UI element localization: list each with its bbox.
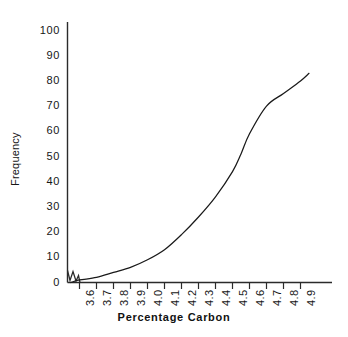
x-axis-tick-labels: 3.63.73.83.94.04.14.24.34.44.54.64.74.84… bbox=[0, 0, 348, 337]
x-tick-label: 4.0 bbox=[153, 290, 164, 307]
x-tick-label: 4.5 bbox=[238, 290, 249, 307]
x-tick-label: 4.7 bbox=[272, 290, 283, 307]
x-tick-label: 3.7 bbox=[102, 290, 113, 307]
x-tick-label: 4.4 bbox=[221, 290, 232, 307]
x-tick-label: 4.2 bbox=[187, 290, 198, 307]
x-tick-label: 4.6 bbox=[255, 290, 266, 307]
x-tick-label: 3.8 bbox=[119, 290, 130, 307]
x-tick-label: 4.9 bbox=[306, 290, 317, 307]
y-axis-title: Frequency bbox=[9, 132, 21, 186]
cumulative-frequency-chart: 0102030405060708090100 3.63.73.83.94.04.… bbox=[0, 0, 348, 337]
x-tick-label: 4.3 bbox=[204, 290, 215, 307]
x-tick-label: 4.8 bbox=[289, 290, 300, 307]
x-tick-label: 3.6 bbox=[85, 290, 96, 307]
x-tick-label: 4.1 bbox=[170, 290, 181, 307]
x-axis-title: Percentage Carbon bbox=[0, 311, 348, 323]
x-tick-label: 3.9 bbox=[136, 290, 147, 307]
